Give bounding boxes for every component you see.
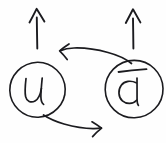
- arrow-up-right: [126, 9, 141, 48]
- node-dbar-glyph-bowl: [119, 81, 137, 103]
- curve-right-to-left-shaft: [61, 48, 132, 64]
- node-dbar-glyph-stem: [137, 78, 138, 105]
- node-u[interactable]: u: [10, 62, 65, 117]
- curve-right-to-left-head: [60, 44, 69, 60]
- diagram-canvas: u d: [0, 0, 166, 143]
- arrow-up-left: [30, 9, 45, 49]
- curve-left-to-right: [44, 115, 102, 137]
- arrow-up-left-shaft: [37, 18, 38, 49]
- node-u-glyph-left: [25, 79, 41, 102]
- node-dbar-overbar: [119, 69, 147, 72]
- node-u-outline: [10, 62, 65, 117]
- node-u-glyph-right: [41, 78, 44, 104]
- node-u-label: [25, 78, 44, 104]
- curve-right-to-left: [60, 44, 132, 64]
- node-dbar[interactable]: d: [105, 60, 163, 117]
- node-dbar-label: [119, 78, 138, 105]
- quark-diagram: u d: [0, 0, 166, 143]
